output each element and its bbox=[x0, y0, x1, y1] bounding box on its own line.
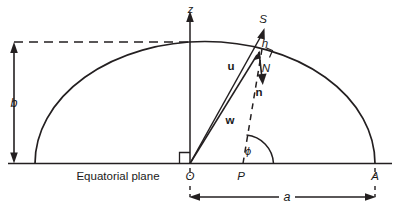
point-label-apex: A bbox=[370, 170, 379, 182]
equatorial-plane-label: Equatorial plane bbox=[76, 170, 159, 182]
ellipsoid-geodesy-diagram: z b a Equatorial plane O P A S h N u n w… bbox=[0, 0, 398, 214]
vector-label-w: w bbox=[225, 114, 235, 126]
z-axis-label: z bbox=[187, 3, 194, 15]
vector-label-n: n bbox=[255, 86, 262, 98]
semi-minor-label: b bbox=[11, 96, 18, 110]
point-label-foot: P bbox=[237, 170, 245, 182]
semi-minor-arrowhead-top bbox=[10, 42, 18, 53]
vector-n-arrowhead bbox=[258, 74, 267, 86]
right-angle-marker-origin bbox=[180, 153, 191, 164]
semi-minor-arrowhead-bottom bbox=[10, 153, 18, 164]
semi-major-label: a bbox=[284, 190, 291, 204]
vector-label-u: u bbox=[227, 60, 234, 72]
height-label: h bbox=[262, 37, 268, 49]
phi-angle-label: ϕ bbox=[245, 145, 251, 157]
diagram-canvas: z b a Equatorial plane O P A S h N u n w… bbox=[0, 0, 398, 214]
point-label-origin: O bbox=[186, 170, 195, 182]
point-label-normal-foot: N bbox=[262, 62, 271, 74]
meridian-ellipse-arc bbox=[35, 41, 375, 163]
vector-label-s: S bbox=[259, 13, 267, 25]
